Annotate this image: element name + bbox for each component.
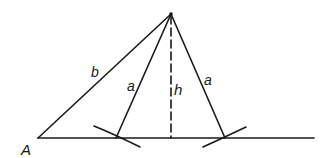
side-b (38, 14, 171, 138)
right-arc (203, 127, 246, 147)
label-point-a: A (20, 141, 31, 158)
side-a-left (116, 14, 171, 138)
diagram-canvas: A b a h a (0, 0, 326, 158)
apex-point (169, 12, 173, 16)
label-side-a-left: a (127, 78, 135, 94)
left-arc (94, 126, 140, 147)
label-side-a-right: a (204, 72, 212, 88)
side-a-right (171, 14, 225, 138)
label-side-b: b (91, 64, 99, 80)
construction-diagram: A b a h a (0, 0, 326, 158)
label-height-h: h (174, 81, 182, 98)
